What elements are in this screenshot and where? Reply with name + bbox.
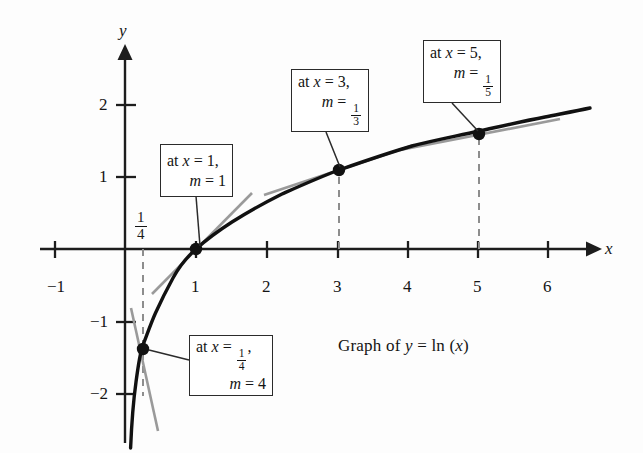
callout-x-5-prefix: at — [430, 44, 446, 61]
callout-x-3-slope-equals: = — [333, 93, 350, 110]
callout-x-1[interactable]: at x = 1, m = 1 — [160, 144, 233, 197]
callout-x-quarter-numerator: 1 — [237, 348, 247, 361]
x-tick-label-2: 2 — [262, 278, 271, 295]
callout-x-quarter-line1: at x = 14, — [196, 338, 266, 373]
callout-x-5-slope-equals: = — [465, 64, 482, 81]
leader-to-point-1 — [196, 196, 200, 246]
figure-caption: Graph of y = ln (x) — [338, 337, 469, 354]
callout-x-3-prefix: at — [298, 73, 314, 90]
point-x-5 — [473, 128, 485, 140]
callout-x-3-slope-fraction: 13 — [351, 103, 361, 128]
caption-x-variable: x — [455, 336, 463, 355]
callout-x-3-slope-denominator: 3 — [351, 116, 361, 128]
x-tick-label-4: 4 — [403, 278, 412, 295]
callout-x-3[interactable]: at x = 3, m = 13 — [291, 69, 369, 132]
callout-x-5-slope-numerator: 1 — [483, 74, 493, 87]
callout-x-quarter-line2: m = 4 — [196, 375, 266, 393]
caption-y-variable: y — [405, 336, 413, 355]
leader-to-point-3 — [326, 132, 340, 167]
callout-x-3-line1: at x = 3, — [298, 73, 362, 91]
callout-x-3-slope-variable: m — [322, 93, 334, 110]
callout-x-1-slope-value: = 1 — [201, 172, 226, 189]
callout-x-5[interactable]: at x = 5, m = 15 — [423, 40, 501, 103]
callout-x-quarter-suffix: , — [247, 338, 251, 355]
y-tick-label-1: 1 — [99, 168, 108, 185]
x-quarter-mark-denominator: 4 — [135, 227, 147, 243]
callout-x-quarter-equals: = — [219, 338, 236, 355]
x-quarter-mark-numerator: 1 — [135, 210, 147, 227]
callout-x-quarter-fraction: 14 — [237, 348, 247, 373]
tangent-at-quarter — [131, 308, 158, 431]
y-tick-label--1: −1 — [90, 313, 108, 330]
x-tick-label-3: 3 — [333, 278, 342, 295]
y-tick-label--2: −2 — [90, 385, 108, 402]
callout-x-1-variable: x — [183, 152, 190, 169]
callout-x-5-line1: at x = 5, — [430, 44, 494, 62]
callout-x-quarter-slope-value: = 4 — [241, 375, 266, 392]
callout-x-1-prefix: at — [167, 152, 183, 169]
caption-prefix: Graph of — [338, 336, 405, 355]
x-tick-label-6: 6 — [543, 278, 552, 295]
callout-x-5-slope-denominator: 5 — [483, 87, 493, 99]
callout-x-1-slope-variable: m — [189, 172, 201, 189]
y-tick-label-2: 2 — [99, 96, 108, 113]
callout-x-quarter-prefix: at — [196, 338, 212, 355]
point-x-quarter — [137, 343, 149, 355]
leader-to-point-5 — [452, 103, 478, 131]
callout-x-quarter-denominator: 4 — [237, 361, 247, 373]
callout-x-3-value: = 3, — [321, 73, 350, 90]
x-quarter-mark: 1 4 — [135, 210, 147, 243]
x-tick-label--1: −1 — [47, 278, 65, 295]
caption-equation: = ln ( — [413, 336, 456, 355]
callout-x-1-line2: m = 1 — [167, 172, 226, 190]
callout-x-1-value: = 1, — [190, 152, 219, 169]
x-axis-arrowhead — [586, 242, 602, 257]
callout-x-3-line2: m = 13 — [298, 93, 362, 128]
y-axis-arrowhead — [118, 44, 133, 60]
callout-x-5-variable: x — [446, 44, 453, 61]
callout-x-3-slope-numerator: 1 — [351, 103, 361, 116]
x-tick-label-5: 5 — [473, 278, 482, 295]
callout-x-5-slope-fraction: 15 — [483, 74, 493, 99]
figure-ln-graph: −1 1 2 3 4 5 6 2 1 −1 −2 1 4 x y at x = … — [0, 0, 643, 453]
callout-x-1-line1: at x = 1, — [167, 152, 226, 170]
leader-to-point-quarter — [149, 350, 189, 360]
callout-x-quarter-variable: x — [212, 338, 219, 355]
callout-x-3-variable: x — [314, 73, 321, 90]
callout-x-quarter-slope-variable: m — [229, 375, 241, 392]
x-axis-label: x — [605, 240, 613, 257]
y-axis-label: y — [119, 22, 127, 39]
callout-x-5-slope-variable: m — [454, 64, 466, 81]
caption-close-paren: ) — [463, 336, 469, 355]
callout-x-5-line2: m = 15 — [430, 64, 494, 99]
callout-x-5-value: = 5, — [453, 44, 482, 61]
x-tick-label-1: 1 — [191, 278, 200, 295]
callout-x-quarter[interactable]: at x = 14, m = 4 — [189, 335, 273, 396]
